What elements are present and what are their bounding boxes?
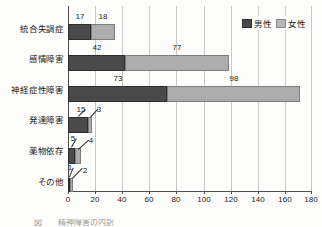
value-label-male-1: 42 [93,43,102,52]
xtick-label-0: 0 [66,195,70,204]
bar-segment-female-5[interactable] [70,178,73,192]
bar-segment-female-4[interactable] [75,148,81,164]
bar-row-3 [68,117,312,133]
y-axis-label-1: 感情障害 [0,52,64,64]
y-axis-label-3: 発達障害 [0,113,64,125]
value-label-female-2: 98 [230,74,239,83]
legend-item-female[interactable]: 女性 [276,17,306,29]
bar-segment-male-0[interactable] [68,24,91,40]
legend-swatch-male-icon [242,19,252,28]
legend-item-male[interactable]: 男性 [242,17,272,29]
xtick-label-60: 60 [145,195,154,204]
cropped-caption-fragment: 図 精神障害の内訳 [2,219,114,227]
bar-segment-male-1[interactable] [68,55,125,71]
xtick-label-80: 80 [172,195,181,204]
xtick-label-140: 140 [251,195,264,204]
bar-segment-male-4[interactable] [68,148,75,164]
value-label-female-1: 77 [173,43,182,52]
xtick-label-40: 40 [118,195,127,204]
bar-row-5 [68,178,312,192]
bar-row-2 [68,86,312,102]
y-axis-label-0: 統合失調症 [0,22,64,34]
legend-label-female: 女性 [288,17,306,29]
xtick-label-180: 180 [304,195,317,204]
y-axis-label-5: その他 [0,175,64,187]
xtick-label-120: 120 [224,195,237,204]
bar-segment-male-3[interactable] [68,117,88,133]
bar-row-4 [68,148,312,164]
y-axis-label-4: 薬物依存 [0,144,64,156]
bar-segment-female-1[interactable] [125,55,229,71]
xtick-label-20: 20 [91,195,100,204]
y-axis-label-2: 神経症性障害 [0,83,64,95]
legend-label-male: 男性 [254,17,272,29]
value-label-female-5: 2 [83,166,87,175]
bar-segment-female-2[interactable] [167,86,300,102]
value-label-male-2: 73 [114,74,123,83]
bar-segment-male-2[interactable] [68,86,167,102]
bar-segment-female-0[interactable] [91,24,115,40]
plot-area: 17 18 42 77 73 98 15 3 5 4 [68,6,312,191]
bar-segment-female-3[interactable] [88,117,92,133]
xtick-label-160: 160 [278,195,291,204]
xtick-label-100: 100 [197,195,210,204]
value-label-female-4: 4 [89,136,93,145]
bar-chart: 統合失調症 感情障害 神経症性障害 発達障害 薬物依存 その他 [0,0,322,227]
value-label-female-0: 18 [99,12,108,21]
scan-edge-artifact: 図 精神障害の内訳 [0,219,322,227]
legend-swatch-female-icon [276,19,286,28]
bar-row-1 [68,55,312,71]
chart-legend: 男性 女性 [240,16,308,30]
value-label-male-0: 17 [76,12,85,21]
